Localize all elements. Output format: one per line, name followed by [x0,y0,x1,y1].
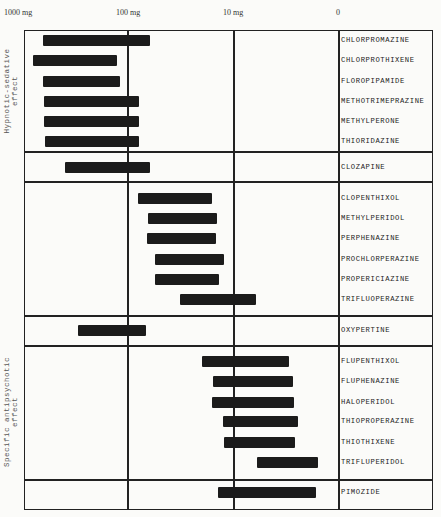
dose-range-bar [155,254,224,265]
drug-label: FLOROPIPAMIDE [341,77,405,85]
row-divider [24,479,433,481]
dose-range-bar [223,416,298,427]
dose-range-bar [155,274,219,285]
drug-label: METHOTRIMEPRAZINE [341,97,425,105]
drug-label: TRIFLUOPERAZINE [341,295,415,303]
dose-range-bar [213,376,293,387]
group-label-line: effect [11,345,19,479]
drug-label: THIOTHIXENE [341,438,395,446]
drug-label: FLUPHENAZINE [341,377,400,385]
dose-range-bar [33,55,117,66]
dose-range-bar [44,96,139,107]
row-divider [24,181,433,183]
group-label-line: effect [11,30,19,152]
dose-range-bar [224,437,295,448]
drug-label: HALOPERIDOL [341,398,395,406]
dose-range-bar [45,136,139,147]
dose-range-bar [147,233,216,244]
dose-range-bar [180,294,256,305]
drug-label: PROPERICIAZINE [341,275,410,283]
drug-label: THIORIDAZINE [341,137,400,145]
group-label-hypnotic-sedative: Hypnotic-sedative effect [3,30,19,152]
row-divider [24,151,433,153]
dose-range-bar [202,356,289,367]
dose-range-bar [78,325,146,336]
dose-range-bar [65,162,150,173]
row-divider [24,345,433,347]
group-label-specific-antipsychotic: Specific antipsychotic effect [3,345,19,479]
drug-label: PIMOZIDE [341,488,380,496]
tick-100mg: 100 mg [116,8,140,17]
dose-range-bar [43,76,120,87]
group-label-line: Specific antipsychotic [3,345,11,479]
tick-1000mg: 1000 mg [4,8,32,17]
drug-label: CLOZAPINE [341,163,385,171]
dose-range-bar [148,213,217,224]
row-divider [24,315,433,317]
tick-0: 0 [336,8,340,17]
dose-range-bar [257,457,318,468]
drug-label: TRIFLUPERIDOL [341,458,405,466]
drug-label: METHYLPERONE [341,117,400,125]
drug-label: OXYPERTINE [341,326,390,334]
dose-range-bar [218,487,316,498]
dose-range-bar [212,397,294,408]
tick-10mg: 10 mg [223,8,243,17]
dose-range-bar [44,116,139,127]
group-label-line: Hypnotic-sedative [3,30,11,152]
dose-range-bar [138,193,212,204]
drug-label: CLOPENTHIXOL [341,194,400,202]
gridline-0 [338,30,340,510]
drug-label: PERPHENAZINE [341,234,400,242]
drug-label: THIOPROPERAZINE [341,417,415,425]
drug-label: CHLORPROTHIXENE [341,56,415,64]
drug-label: CHLORPROMAZINE [341,36,410,44]
drug-label: METHYLPERIDOL [341,214,405,222]
drug-label: PROCHLORPERAZINE [341,255,420,263]
dose-range-bar [43,35,150,46]
drug-label: FLUPENTHIXOL [341,357,400,365]
